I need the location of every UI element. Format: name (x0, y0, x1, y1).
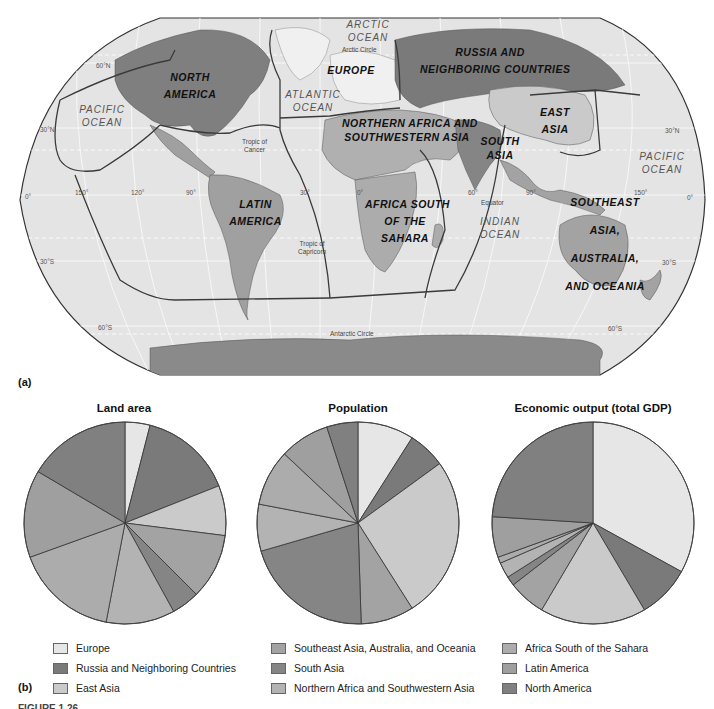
label-line: RUSSIA AND (420, 44, 560, 61)
lat-30n-left: 30°N (40, 126, 55, 133)
legend-swatch (53, 643, 68, 654)
ocean-label-arctic: ARCTIC OCEAN (338, 18, 398, 44)
lat-60s-right: 60°S (608, 325, 622, 332)
legend-label: Africa South of the Sahara (525, 642, 648, 654)
label-line: OCEAN (72, 116, 132, 129)
label-line: OCEAN (632, 163, 692, 176)
arctic-circle-label: Arctic Circle (342, 46, 377, 54)
legend-swatch (502, 663, 517, 674)
label-line: Capricorn (298, 248, 326, 256)
tropic-cancer-label: Tropic of Cancer (242, 138, 267, 154)
legend-label: North America (525, 682, 592, 694)
label-line: SOUTHWESTERN ASIA (342, 130, 472, 144)
legend-item-southeast-asia: Southeast Asia, Australia, and Oceania (271, 642, 476, 654)
pie-chart-population (253, 418, 463, 628)
legend-item-east-asia: East Asia (53, 682, 120, 694)
label-line: ASIA (530, 121, 580, 138)
label-line: ARCTIC (338, 18, 398, 31)
equator-label: Equator (481, 199, 504, 207)
label-line: SOUTH (475, 134, 525, 148)
panel-a-tag: (a) (18, 376, 31, 388)
lon-0: 0° (357, 189, 363, 196)
map-label-latin-america: LATIN AMERICA (223, 196, 288, 230)
tropic-capricorn-label: Tropic of Capricorn (298, 240, 326, 256)
label-line: AMERICA (223, 213, 288, 230)
label-line: NORTH (155, 69, 225, 86)
antarctic-circle-label: Antarctic Circle (330, 330, 374, 338)
map-label-europe: EUROPE (326, 62, 376, 79)
pie-chart-land-area (20, 418, 230, 628)
map-label-south-asia: SOUTH ASIA (475, 134, 525, 162)
label-line: AFRICA SOUTH (365, 196, 445, 213)
legend-label: Europe (76, 642, 110, 654)
label-line: AMERICA (155, 86, 225, 103)
map-label-northern-africa: NORTHERN AFRICA AND SOUTHWESTERN ASIA (342, 116, 472, 144)
legend-swatch (502, 683, 517, 694)
map-label-russia: RUSSIA AND NEIGHBORING COUNTRIES (420, 44, 560, 78)
label-line: AND OCEANIA (565, 272, 645, 300)
lat-30n-right: 30°N (665, 127, 680, 134)
label-line: PACIFIC (72, 103, 132, 116)
pie-slice (492, 422, 593, 523)
label-line: Cancer (242, 146, 267, 154)
pie-chart-gdp (488, 418, 698, 628)
legend-item-northern-africa: Northern Africa and Southwestern Asia (271, 682, 474, 694)
map-label-east-asia: EAST ASIA (530, 104, 580, 138)
label-line: ATLANTIC (283, 88, 343, 101)
ocean-label-pacific-east: PACIFIC OCEAN (632, 150, 692, 176)
ocean-label-atlantic: ATLANTIC OCEAN (283, 88, 343, 114)
label-line: AUSTRALIA, (565, 244, 645, 272)
legend-label: Southeast Asia, Australia, and Oceania (294, 642, 476, 654)
legend-swatch (271, 643, 286, 654)
label-line: PACIFIC (632, 150, 692, 163)
legend-item-russia: Russia and Neighboring Countries (53, 662, 236, 674)
lon-120w: 120° (131, 189, 144, 196)
lat-60s-left: 60°S (98, 324, 112, 331)
label-line: ASIA, (565, 216, 645, 244)
map-label-africa-south: AFRICA SOUTH OF THE SAHARA (365, 196, 445, 247)
legend-item-europe: Europe (53, 642, 110, 654)
lat-0-right: 0° (687, 194, 693, 201)
lat-30s-left: 30°S (40, 258, 54, 265)
lon-90e: 90° (526, 189, 536, 196)
lon-150w: 150° (75, 189, 88, 196)
lon-30w: 30° (300, 189, 310, 196)
legend-swatch (271, 663, 286, 674)
panel-b-tag: (b) (18, 681, 32, 693)
label-line: OCEAN (338, 31, 398, 44)
label-line: EAST (530, 104, 580, 121)
label-line: EUROPE (326, 62, 376, 79)
legend-label: Northern Africa and Southwestern Asia (294, 682, 474, 694)
map-label-north-america: NORTH AMERICA (155, 69, 225, 103)
legend-swatch (502, 643, 517, 654)
legend-swatch (53, 683, 68, 694)
map-label-southeast-asia: SOUTHEAST ASIA, AUSTRALIA, AND OCEANIA (565, 188, 645, 300)
label-line: LATIN (223, 196, 288, 213)
figure-caption: FIGURE 1.26 (18, 701, 78, 709)
label-line: SAHARA (365, 230, 445, 247)
label-line: Tropic of (242, 138, 267, 146)
lat-0-left: 0° (25, 193, 31, 200)
lat-30s-right: 30°S (662, 259, 676, 266)
lon-90w: 90° (186, 189, 196, 196)
ocean-label-indian: INDIAN OCEAN (470, 215, 530, 241)
label-line: ASIA (475, 148, 525, 162)
legend-label: South Asia (294, 662, 344, 674)
legend-label: East Asia (76, 682, 120, 694)
legend-label: Latin America (525, 662, 589, 674)
label-line: OCEAN (283, 101, 343, 114)
pie-title-gdp: Economic output (total GDP) (473, 402, 713, 414)
legend-swatch (271, 683, 286, 694)
label-line: Tropic of (298, 240, 326, 248)
label-line: INDIAN (470, 215, 530, 228)
lon-150e: 150° (634, 189, 647, 196)
label-line: NORTHERN AFRICA AND (342, 116, 472, 130)
pie-title-population: Population (238, 402, 478, 414)
label-line: NEIGHBORING COUNTRIES (420, 61, 560, 78)
lon-60e: 60° (468, 189, 478, 196)
label-line: OCEAN (470, 228, 530, 241)
pie-title-land-area: Land area (4, 402, 244, 414)
legend-item-north-america: North America (502, 682, 592, 694)
lat-60n: 60°N (96, 62, 111, 69)
legend-swatch (53, 663, 68, 674)
